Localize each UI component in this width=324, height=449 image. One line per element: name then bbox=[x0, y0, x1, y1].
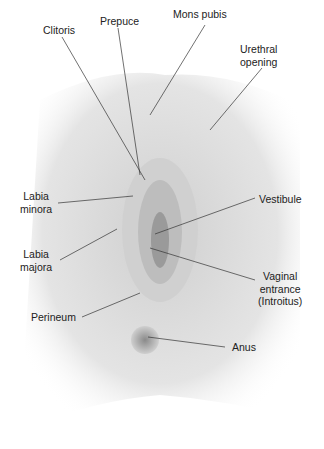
label-prepuce: Prepuce bbox=[100, 15, 139, 28]
label-labia-majora: Labia majora bbox=[20, 248, 52, 273]
anatomy-diagram: Clitoris Prepuce Mons pubis Urethral ope… bbox=[0, 0, 324, 449]
label-clitoris: Clitoris bbox=[43, 24, 75, 37]
label-urethral-opening: Urethral opening bbox=[240, 43, 277, 68]
label-perineum: Perineum bbox=[31, 311, 76, 324]
label-vaginal-entrance: Vaginal entrance (Introitus) bbox=[258, 270, 302, 308]
label-vestibule: Vestibule bbox=[259, 193, 302, 206]
label-mons-pubis: Mons pubis bbox=[173, 8, 227, 21]
label-anus: Anus bbox=[232, 341, 256, 354]
label-labia-minora: Labia minora bbox=[20, 190, 52, 215]
lower-region bbox=[131, 326, 159, 354]
